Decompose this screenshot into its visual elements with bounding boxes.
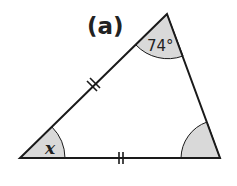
bottom-left-angle-sector	[20, 127, 65, 158]
left-side-double-tick	[87, 78, 100, 91]
bottom-left-angle-label: x	[44, 138, 56, 158]
triangle-diagram: (a) 74° x	[0, 0, 237, 186]
part-label: (a)	[87, 13, 124, 39]
top-angle-label: 74°	[147, 37, 174, 55]
